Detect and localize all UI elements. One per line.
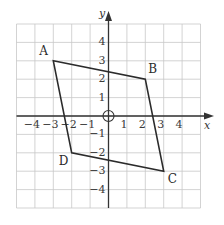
- x-tick-label: 3: [157, 118, 164, 131]
- y-tick-label: 2: [99, 72, 106, 85]
- y-tick-label: 1: [99, 91, 106, 104]
- y-tick-label: −1: [89, 127, 105, 140]
- vertex-label-c: C: [168, 172, 177, 186]
- coordinate-diagram: x y −4−3−2−112344321−1−2−3−4 ABCD: [0, 0, 224, 225]
- x-tick-label: 1: [120, 118, 127, 131]
- y-tick-label: −3: [89, 164, 105, 177]
- x-tick-label: 2: [139, 118, 146, 131]
- axes: x y: [17, 7, 215, 208]
- x-tick-label: −4: [24, 118, 40, 131]
- x-tick-label: −3: [42, 118, 58, 131]
- x-tick-label: 4: [176, 118, 183, 131]
- y-axis-label: y: [98, 7, 106, 20]
- y-tick-label: 4: [99, 35, 106, 48]
- x-tick-label: −2: [61, 118, 77, 131]
- y-axis-arrow-icon: [105, 11, 112, 21]
- vertex-label-b: B: [148, 62, 157, 76]
- coordinate-plane: x y −4−3−2−112344321−1−2−3−4 ABCD: [0, 0, 224, 225]
- vertex-label-d: D: [59, 154, 69, 168]
- vertex-label-a: A: [38, 44, 48, 58]
- y-tick-label: −4: [89, 183, 105, 196]
- x-axis-label: x: [204, 119, 211, 132]
- vertex-labels: ABCD: [38, 44, 177, 186]
- y-tick-label: 3: [99, 54, 106, 67]
